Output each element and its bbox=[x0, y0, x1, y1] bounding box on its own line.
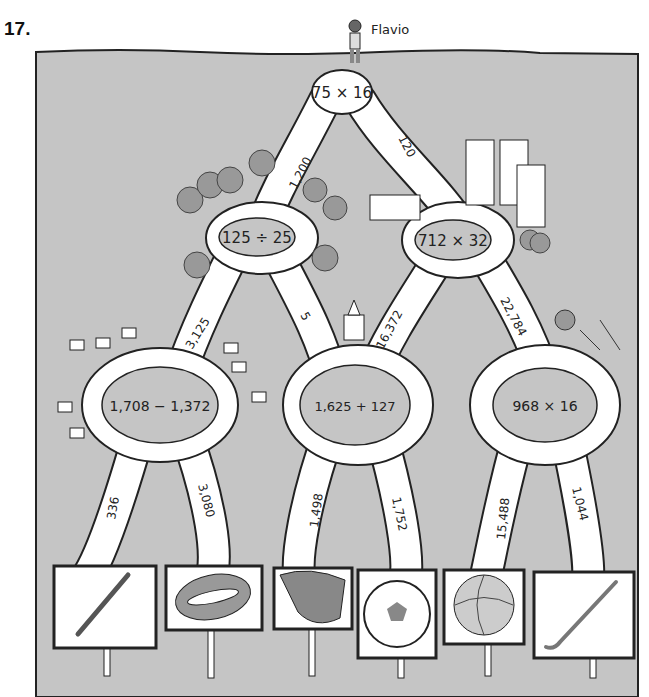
sign-4[interactable] bbox=[358, 570, 436, 658]
roundabout-low-right[interactable]: 968 × 16 bbox=[470, 345, 620, 465]
svg-text:968 × 16: 968 × 16 bbox=[512, 398, 577, 414]
svg-text:1,625 + 127: 1,625 + 127 bbox=[314, 399, 395, 414]
school-building-icon bbox=[370, 195, 420, 220]
roundabout-mid-left[interactable]: 125 ÷ 25 bbox=[206, 202, 318, 274]
sign-2[interactable] bbox=[166, 566, 262, 630]
path-map: 75 × 16 125 ÷ 25 712 × 32 1,708 − 1,372 … bbox=[0, 0, 649, 697]
basketball-icon bbox=[454, 575, 514, 635]
svg-text:1,708 − 1,372: 1,708 − 1,372 bbox=[110, 398, 211, 414]
roundabout-top[interactable]: 75 × 16 bbox=[312, 70, 372, 114]
sign-5[interactable] bbox=[444, 570, 524, 644]
roundabout-low-left[interactable]: 1,708 − 1,372 bbox=[82, 348, 238, 462]
svg-text:712 × 32: 712 × 32 bbox=[418, 232, 488, 250]
roundabout-low-center[interactable]: 1,625 + 127 bbox=[283, 345, 433, 465]
svg-text:75 × 16: 75 × 16 bbox=[312, 84, 372, 102]
soccer-ball-icon bbox=[364, 581, 430, 647]
sign-3[interactable] bbox=[274, 568, 352, 629]
sign-1[interactable] bbox=[54, 566, 156, 648]
svg-text:125 ÷ 25: 125 ÷ 25 bbox=[222, 229, 292, 247]
sign-6[interactable] bbox=[534, 572, 634, 658]
